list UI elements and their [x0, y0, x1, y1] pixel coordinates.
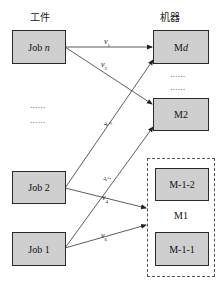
md-node: Md [153, 30, 209, 64]
job-n-label-suffix: n [45, 42, 50, 53]
edge-label-v6-sub: 6 [105, 237, 108, 242]
m-1-2-label: M-1-2 [169, 179, 195, 190]
edge-label-v6: v6 [101, 231, 107, 242]
m2-node: M2 [153, 98, 209, 131]
m-1-1-node: M-1-1 [155, 232, 209, 266]
edge-label-v1-sub: 1 [108, 43, 111, 48]
m-1-2-node: M-1-2 [155, 168, 209, 201]
md-label-suffix: d [183, 42, 188, 53]
job-1-label: Job 1 [28, 244, 49, 255]
m1-group-label: M1 [174, 210, 188, 221]
machines-ellipsis-1: ...... [170, 71, 185, 79]
edge-label-v1: v1 [104, 37, 110, 48]
jobs-ellipsis-1: ...... [30, 102, 45, 110]
machines-header: 机器 [160, 9, 180, 24]
edge-v2 [65, 47, 152, 104]
md-label-prefix: M [174, 42, 183, 53]
edge-label-v2-sub: 2 [105, 66, 108, 71]
edge-label-v4-sub: 4 [106, 199, 109, 204]
m2-label: M2 [174, 109, 188, 120]
job-n-label-prefix: Job [28, 42, 44, 53]
edge-label-v2: v2 [101, 60, 107, 71]
job-2-label: Job 2 [28, 182, 49, 193]
machines-ellipsis-2: ...... [170, 84, 185, 92]
job-1-node: Job 1 [12, 232, 66, 266]
edge-v5 [65, 127, 153, 248]
jobs-header: 工件 [30, 9, 50, 24]
job-n-node: Job n [12, 30, 66, 64]
job-2-node: Job 2 [12, 171, 66, 204]
jobs-ellipsis-2: ...... [30, 117, 45, 125]
m-1-1-label: M-1-1 [169, 244, 195, 255]
edge-label-v4: v4 [102, 193, 108, 204]
